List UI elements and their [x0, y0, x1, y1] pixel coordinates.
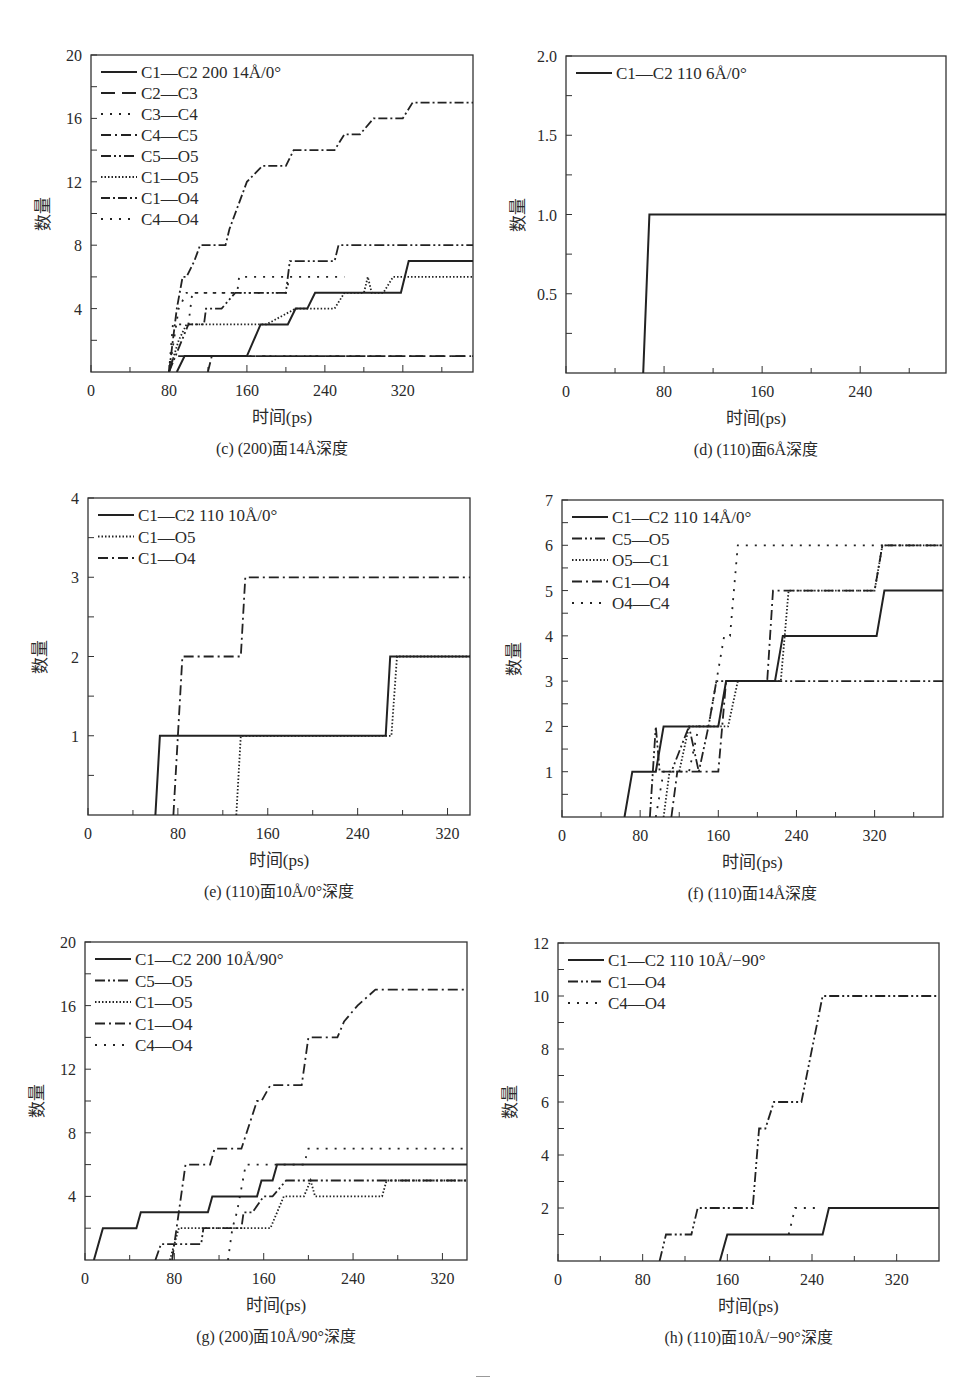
legend-label: C1—O4: [141, 189, 199, 208]
y-tick-label: 20: [60, 934, 76, 951]
x-tick-label: 80: [656, 383, 672, 400]
legend-label: C4—C5: [141, 126, 198, 145]
legend-label: C1—O4: [612, 573, 670, 592]
x-tick-label: 160: [252, 1270, 276, 1287]
legend-label: C1—C2 110 6Å/0°: [616, 64, 747, 83]
y-tick-label: 2.0: [537, 48, 557, 65]
series-line: [650, 681, 943, 817]
series-line: [172, 990, 467, 1260]
y-tick-label: 20: [66, 47, 82, 64]
y-tick-label: 12: [60, 1061, 76, 1078]
chart-panel-e: 0801602403201234时间(ps)数量(e) (110)面10Å/0°…: [31, 490, 470, 901]
legend-label: C1—C2 110 10Å/−90°: [608, 951, 765, 970]
x-tick-label: 320: [430, 1270, 454, 1287]
x-axis-label: 时间(ps): [726, 409, 786, 428]
y-tick-label: 2: [71, 649, 79, 666]
x-tick-label: 160: [706, 827, 730, 844]
legend-label: C1—O5: [135, 993, 193, 1012]
y-axis-label: 数量: [28, 1084, 47, 1118]
x-axis-label: 时间(ps): [718, 1297, 778, 1316]
x-tick-label: 0: [554, 1271, 562, 1288]
y-tick-label: 4: [68, 1188, 76, 1205]
y-tick-label: 1.0: [537, 207, 557, 224]
series-line: [169, 103, 473, 372]
x-tick-label: 0: [81, 1270, 89, 1287]
legend-label: C4—O4: [135, 1036, 193, 1055]
chart-caption: (c) (200)面14Å深度: [216, 440, 348, 458]
y-tick-label: 3: [71, 569, 79, 586]
series-line: [169, 356, 473, 372]
x-tick-label: 160: [715, 1271, 739, 1288]
y-tick-label: 16: [66, 110, 82, 127]
y-tick-label: 12: [533, 935, 549, 952]
legend-label: C4—O4: [141, 210, 199, 229]
x-tick-label: 80: [170, 825, 186, 842]
x-tick-label: 240: [848, 383, 872, 400]
x-tick-label: 80: [632, 827, 648, 844]
legend-label: C1—C2 110 14Å/0°: [612, 508, 751, 527]
x-tick-label: 80: [166, 1270, 182, 1287]
x-tick-label: 0: [558, 827, 566, 844]
x-tick-label: 240: [341, 1270, 365, 1287]
chart-panel-h: 08016024032024681012时间(ps)数量(h) (110)面10…: [501, 935, 939, 1347]
x-tick-label: 0: [562, 383, 570, 400]
legend-label: C4—O4: [608, 994, 666, 1013]
series-line: [169, 277, 473, 372]
y-tick-label: 2: [541, 1200, 549, 1217]
series-line: [173, 577, 470, 815]
y-tick-label: 5: [545, 583, 553, 600]
y-tick-label: 4: [74, 301, 82, 318]
x-axis-label: 时间(ps): [249, 851, 309, 870]
chart-caption: (h) (110)面10Å/−90°深度: [664, 1329, 832, 1347]
series-line: [660, 996, 939, 1261]
series-line: [170, 1181, 467, 1261]
y-tick-label: 16: [60, 998, 76, 1015]
x-axis-label: 时间(ps): [722, 853, 782, 872]
legend-label: C5—O5: [612, 530, 670, 549]
series-line: [155, 1181, 467, 1261]
x-tick-label: 0: [84, 825, 92, 842]
y-tick-label: 2: [545, 718, 553, 735]
y-axis-label: 数量: [509, 198, 528, 232]
legend-label: C1—C2 110 10Å/0°: [138, 506, 277, 525]
y-tick-label: 1: [71, 728, 79, 745]
y-tick-label: 4: [545, 628, 553, 645]
x-tick-label: 0: [87, 382, 95, 399]
figure-svg: 08016024032048121620时间(ps)数量(c) (200)面14…: [0, 0, 979, 1383]
x-tick-label: 320: [885, 1271, 909, 1288]
y-tick-label: 0.5: [537, 286, 557, 303]
legend-label: C3—C4: [141, 105, 198, 124]
legend-label: C1—C2 200 14Å/0°: [141, 63, 281, 82]
y-tick-label: 12: [66, 174, 82, 191]
y-axis-label: 数量: [31, 640, 50, 674]
y-tick-label: 4: [541, 1147, 549, 1164]
x-tick-label: 320: [391, 382, 415, 399]
legend-label: O4—C4: [612, 594, 670, 613]
legend-label: C1—O4: [135, 1015, 193, 1034]
x-tick-label: 160: [256, 825, 280, 842]
legend-label: C1—O5: [141, 168, 199, 187]
legend-label: C1—C2 200 10Å/90°: [135, 950, 283, 969]
legend-label: C5—O5: [135, 972, 193, 991]
legend-label: C5—O5: [141, 147, 199, 166]
y-tick-label: 8: [541, 1041, 549, 1058]
x-axis-label: 时间(ps): [252, 408, 312, 427]
legend-label: C2—C3: [141, 84, 198, 103]
y-tick-label: 7: [545, 492, 553, 509]
legend-label: O5—C1: [612, 551, 670, 570]
legend-label: C1—O4: [138, 549, 196, 568]
y-axis-label: 数量: [501, 1085, 520, 1119]
series-line: [789, 1208, 821, 1235]
chart-caption: (g) (200)面10Å/90°深度: [196, 1328, 356, 1346]
y-tick-label: 10: [533, 988, 549, 1005]
chart-caption: (f) (110)面14Å深度: [688, 885, 818, 903]
y-tick-label: 3: [545, 673, 553, 690]
x-tick-label: 160: [750, 383, 774, 400]
y-tick-label: 8: [68, 1125, 76, 1142]
x-tick-label: 320: [863, 827, 887, 844]
chart-panel-c: 08016024032048121620时间(ps)数量(c) (200)面14…: [34, 47, 473, 458]
series-line: [720, 1208, 939, 1261]
x-tick-label: 80: [161, 382, 177, 399]
chart-caption: (e) (110)面10Å/0°深度: [204, 883, 354, 901]
legend-label: C1—O5: [138, 528, 196, 547]
